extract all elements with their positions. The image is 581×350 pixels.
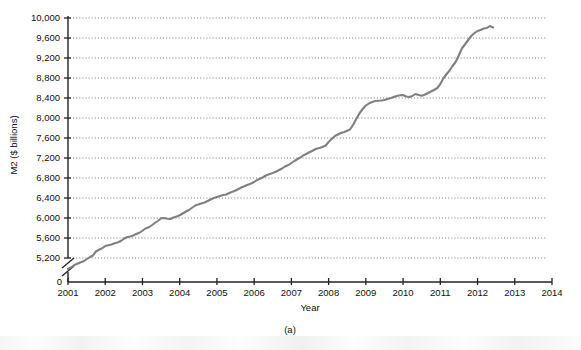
x-axis-tick-label: 2014 — [541, 287, 562, 298]
x-axis-tick-label: 2009 — [355, 287, 376, 298]
y-axis-tick-label: 9,200 — [36, 52, 60, 63]
x-axis-tick-label: 2013 — [504, 287, 525, 298]
y-axis-tick-label: 6,400 — [36, 192, 60, 203]
y-axis-tick-label: 8,800 — [36, 72, 60, 83]
y-axis-tick-label: 6,800 — [36, 172, 60, 183]
y-axis-tick-label: 9,600 — [36, 32, 60, 43]
x-axis-tick-label: 2012 — [467, 287, 488, 298]
x-axis-tick-label: 2010 — [393, 287, 414, 298]
x-axis-tick-label: 2007 — [281, 287, 302, 298]
y-axis-tick-label: 8,400 — [36, 92, 60, 103]
panel-caption: (a) — [284, 324, 296, 335]
x-axis-tick-label: 2011 — [430, 287, 450, 298]
x-axis-tick-label: 2004 — [169, 287, 190, 298]
x-axis-title: Year — [300, 302, 319, 313]
y-axis-tick-label: 5,600 — [36, 232, 60, 243]
x-axis-tick-label: 2005 — [206, 287, 227, 298]
m2-money-supply-line-chart: 5,2005,6006,0006,4006,8007,2007,6008,000… — [0, 0, 581, 350]
y-axis-tick-label: 6,000 — [36, 212, 60, 223]
x-axis-tick-label: 2008 — [318, 287, 339, 298]
y-axis-tick-label: 7,200 — [36, 152, 60, 163]
x-axis-tick-label: 2003 — [132, 287, 153, 298]
y-axis-tick-label: 8,000 — [36, 112, 60, 123]
y-axis-tick-label: 7,600 — [36, 132, 60, 143]
y-axis-tick-label: 10,000 — [31, 12, 60, 23]
figure-panel-a: 5,2005,6006,0006,4006,8007,2007,6008,000… — [0, 0, 581, 350]
x-axis-tick-label: 2001 — [57, 287, 78, 298]
x-axis-tick-label: 2002 — [95, 287, 116, 298]
y-axis-title: M2 ($ billions) — [8, 115, 19, 174]
y-axis-tick-label: 5,200 — [36, 252, 60, 263]
x-axis-tick-label: 2006 — [244, 287, 265, 298]
y-axis-zero-label: 0 — [57, 276, 62, 287]
